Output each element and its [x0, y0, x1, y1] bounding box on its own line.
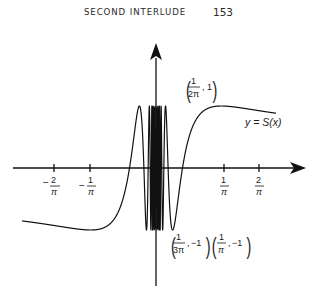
- svg-text:π: π: [256, 187, 263, 197]
- tick-label-2-over-pi: 2 π: [255, 175, 264, 197]
- svg-text:3π: 3π: [173, 245, 184, 255]
- svg-text:1: 1: [221, 175, 226, 185]
- svg-text:π: π: [51, 187, 58, 197]
- svg-text:π: π: [218, 245, 225, 255]
- svg-text:,: ,: [187, 238, 190, 248]
- tick-label-1-over-pi: 1 π: [220, 175, 229, 197]
- y-axis-arrow-icon: [150, 43, 162, 60]
- svg-text:2π: 2π: [188, 89, 199, 99]
- svg-text:): ): [206, 232, 211, 259]
- annotation-trough-1-over-pi: ( 1 π , −1 ): [212, 232, 252, 259]
- svg-text:−1: −1: [232, 238, 242, 248]
- svg-text:2: 2: [256, 175, 261, 185]
- svg-text:−: −: [43, 177, 49, 188]
- svg-text:,: ,: [202, 82, 205, 92]
- svg-text:1: 1: [176, 232, 181, 242]
- svg-text:1: 1: [191, 76, 196, 86]
- svg-text:,: ,: [228, 238, 231, 248]
- function-label: y = S(x): [244, 116, 281, 128]
- svg-text:π: π: [221, 187, 228, 197]
- svg-text:(: (: [212, 232, 217, 259]
- annotation-peak-1-over-2pi: ( 1 2π , 1 ): [186, 76, 217, 103]
- tick-label-neg-2-over-pi: − 2 π: [43, 175, 60, 197]
- tick-label-neg-1-over-pi: − 1 π: [79, 175, 96, 197]
- svg-text:1: 1: [88, 175, 93, 185]
- svg-text:): ): [212, 76, 217, 103]
- svg-text:): ): [247, 232, 252, 259]
- svg-text:π: π: [88, 187, 95, 197]
- svg-text:2: 2: [51, 175, 56, 185]
- svg-text:1: 1: [219, 232, 224, 242]
- sin-one-over-x-graph: − 2 π − 1 π 1 π 2 π y = S(x) ( 1 2π , 1: [0, 0, 317, 302]
- svg-text:1: 1: [207, 82, 212, 92]
- svg-text:−1: −1: [191, 238, 201, 248]
- svg-text:−: −: [79, 180, 85, 191]
- annotation-trough-1-over-3pi: ( 1 3π , −1 ): [171, 232, 211, 259]
